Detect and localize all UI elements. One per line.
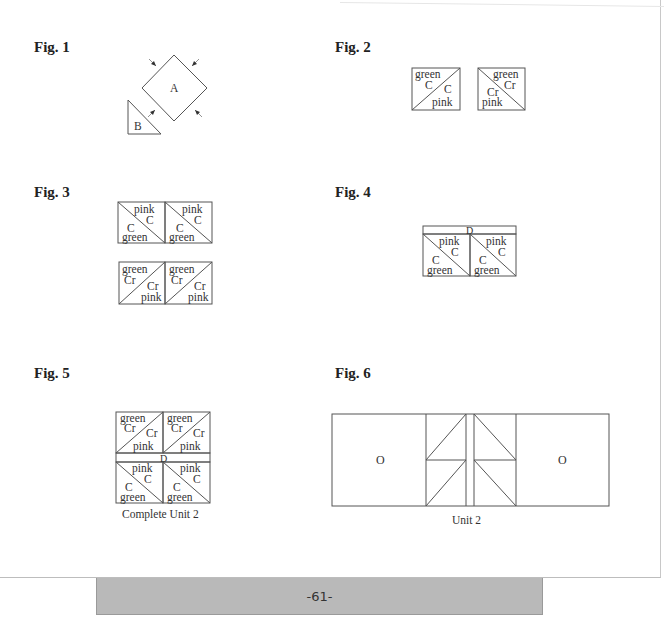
block-o-left: O: [376, 453, 385, 467]
svg-text:D: D: [466, 225, 473, 236]
fig-6-diagram: O O Unit 2: [332, 414, 609, 526]
svg-text:Cr: Cr: [124, 422, 136, 434]
fig-4-diagram: D pink C C green pink C C green: [423, 225, 516, 277]
svg-text:pink: pink: [432, 96, 453, 109]
svg-text:pink: pink: [188, 291, 209, 304]
page-number: -61-: [307, 589, 333, 604]
svg-text:green: green: [427, 264, 453, 277]
document-page: Fig. 1 Fig. 2 Fig. 3 Fig. 4 Fig. 5 Fig. …: [0, 0, 661, 578]
svg-text:C: C: [451, 246, 459, 258]
svg-text:green: green: [120, 491, 146, 504]
svg-text:pink: pink: [141, 291, 162, 304]
svg-text:green: green: [169, 231, 195, 244]
svg-text:C: C: [498, 246, 506, 258]
svg-text:pink: pink: [180, 440, 201, 453]
fig-5-caption: Complete Unit 2: [122, 508, 199, 521]
page-footer: -61-: [96, 578, 543, 615]
svg-text:C: C: [194, 214, 202, 226]
svg-text:pink: pink: [133, 440, 154, 453]
fig-5-diagram: green Cr Cr pink green Cr Cr pink D pink…: [116, 412, 210, 521]
svg-text:Cr: Cr: [124, 274, 136, 286]
svg-text:green: green: [474, 264, 500, 277]
piece-b-label: B: [134, 120, 142, 132]
svg-text:C: C: [144, 473, 152, 485]
svg-text:Cr: Cr: [171, 274, 183, 286]
svg-text:Cr: Cr: [171, 422, 183, 434]
svg-text:C: C: [444, 83, 452, 95]
svg-text:Cr: Cr: [193, 427, 205, 439]
fig-1-diagram: A B: [128, 55, 207, 134]
fig-2-diagram: green C C pink green Cr Cr pink: [412, 68, 525, 110]
svg-text:green: green: [167, 491, 193, 504]
fig-6-caption: Unit 2: [452, 514, 481, 526]
svg-text:Cr: Cr: [146, 427, 158, 439]
block-o-right: O: [558, 453, 567, 467]
svg-text:C: C: [425, 79, 433, 91]
svg-text:green: green: [122, 231, 148, 244]
fig-3-diagram: pink C C green pink C C green green Cr C…: [118, 202, 212, 304]
triangle-b: [128, 100, 161, 134]
svg-text:C: C: [146, 214, 154, 226]
svg-text:Cr: Cr: [504, 79, 516, 91]
svg-text:C: C: [193, 473, 201, 485]
svg-text:pink: pink: [482, 96, 503, 109]
svg-text:D: D: [160, 453, 167, 464]
piece-a-label: A: [170, 82, 179, 94]
figures-canvas: A B green C C pink green Cr Cr pin: [0, 0, 664, 577]
